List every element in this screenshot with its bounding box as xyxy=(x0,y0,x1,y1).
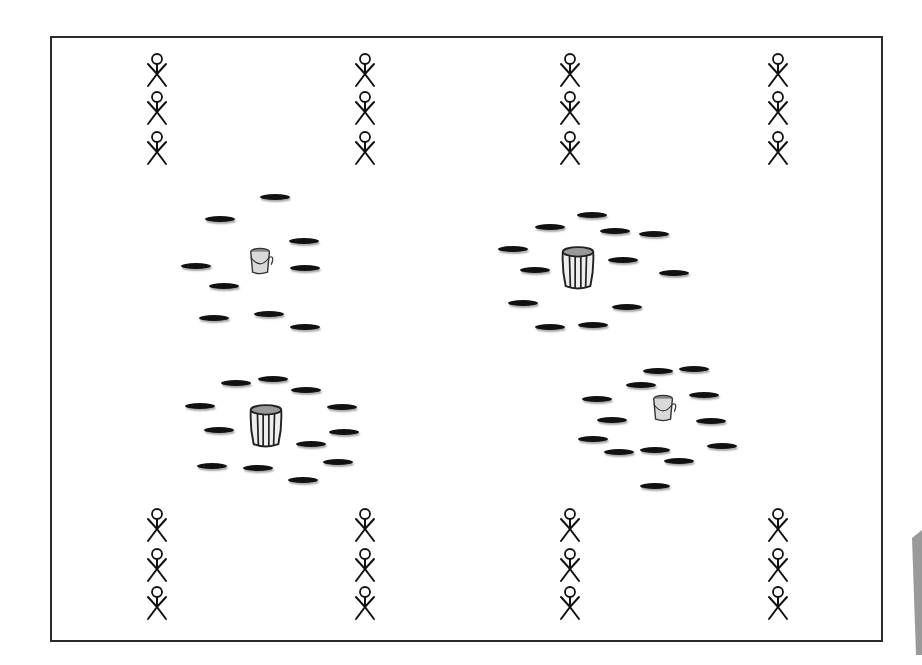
floor-spot-marker xyxy=(612,304,642,310)
floor-spot-marker xyxy=(696,418,726,424)
bucket-icon xyxy=(650,393,678,427)
floor-spot-marker xyxy=(604,449,634,455)
floor-spot-marker xyxy=(260,194,290,200)
floor-spot-marker xyxy=(327,404,357,410)
floor-spot-marker xyxy=(608,257,638,263)
stick-figure-icon xyxy=(353,90,377,126)
floor-spot-marker xyxy=(197,463,227,469)
floor-spot-marker xyxy=(288,477,318,483)
floor-spot-marker xyxy=(520,267,550,273)
floor-spot-marker xyxy=(640,447,670,453)
floor-spot-marker xyxy=(582,396,612,402)
floor-spot-marker xyxy=(679,366,709,372)
stick-figure-icon xyxy=(558,52,582,88)
floor-spot-marker xyxy=(199,315,229,321)
stick-figure-icon xyxy=(766,547,790,583)
floor-spot-marker xyxy=(204,427,234,433)
floor-spot-marker xyxy=(707,443,737,449)
floor-spot-marker xyxy=(254,311,284,317)
floor-spot-marker xyxy=(626,382,656,388)
stick-figure-icon xyxy=(558,507,582,543)
playing-field-boundary xyxy=(50,36,883,642)
floor-spot-marker xyxy=(289,238,319,244)
floor-spot-marker xyxy=(664,458,694,464)
stick-figure-icon xyxy=(145,507,169,543)
floor-spot-marker xyxy=(535,224,565,230)
floor-spot-marker xyxy=(329,429,359,435)
stick-figure-icon xyxy=(558,90,582,126)
floor-spot-marker xyxy=(659,270,689,276)
stick-figure-icon xyxy=(145,547,169,583)
floor-spot-marker xyxy=(578,322,608,328)
stick-figure-icon xyxy=(145,52,169,88)
stick-figure-icon xyxy=(766,90,790,126)
stick-figure-icon xyxy=(353,585,377,621)
stick-figure-icon xyxy=(766,130,790,166)
floor-spot-marker xyxy=(205,216,235,222)
floor-spot-marker xyxy=(498,246,528,252)
floor-spot-marker xyxy=(640,483,670,489)
barrel-icon xyxy=(559,244,597,296)
page-curl-decoration xyxy=(908,530,922,655)
floor-spot-marker xyxy=(578,436,608,442)
stick-figure-icon xyxy=(145,90,169,126)
stick-figure-icon xyxy=(766,585,790,621)
floor-spot-marker xyxy=(221,380,251,386)
floor-spot-marker xyxy=(291,387,321,393)
floor-spot-marker xyxy=(181,263,211,269)
floor-spot-marker xyxy=(209,283,239,289)
stick-figure-icon xyxy=(353,507,377,543)
floor-spot-marker xyxy=(258,376,288,382)
floor-spot-marker xyxy=(597,417,627,423)
stick-figure-icon xyxy=(145,585,169,621)
floor-spot-marker xyxy=(639,231,669,237)
stick-figure-icon xyxy=(558,130,582,166)
stick-figure-icon xyxy=(353,130,377,166)
bucket-icon xyxy=(247,246,275,280)
floor-spot-marker xyxy=(290,265,320,271)
stick-figure-icon xyxy=(558,547,582,583)
stick-figure-icon xyxy=(766,507,790,543)
floor-spot-marker xyxy=(535,324,565,330)
floor-spot-marker xyxy=(508,300,538,306)
floor-spot-marker xyxy=(643,368,673,374)
floor-spot-marker xyxy=(243,465,273,471)
floor-spot-marker xyxy=(689,392,719,398)
stick-figure-icon xyxy=(558,585,582,621)
stick-figure-icon xyxy=(766,52,790,88)
floor-spot-marker xyxy=(290,324,320,330)
stick-figure-icon xyxy=(145,130,169,166)
barrel-icon xyxy=(247,402,285,454)
floor-spot-marker xyxy=(185,403,215,409)
stick-figure-icon xyxy=(353,547,377,583)
floor-spot-marker xyxy=(296,441,326,447)
floor-spot-marker xyxy=(323,459,353,465)
floor-spot-marker xyxy=(600,228,630,234)
stick-figure-icon xyxy=(353,52,377,88)
floor-spot-marker xyxy=(577,212,607,218)
